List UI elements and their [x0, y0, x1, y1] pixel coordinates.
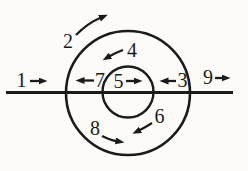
- figure-canvas: 1 2 3 4 5 6 7: [0, 0, 248, 171]
- arrow-3-group: 3: [168, 69, 188, 91]
- arrow-2-up-right-icon: [76, 18, 100, 35]
- arrow-1-group: 1: [17, 69, 40, 91]
- arrow-8-group: 8: [90, 117, 116, 141]
- arrow-3-label: 3: [178, 69, 188, 91]
- arrow-7-group: 7: [84, 69, 105, 91]
- arrow-4-label: 4: [127, 39, 137, 61]
- arrow-4-group: 4: [110, 39, 137, 61]
- arrow-5-label: 5: [114, 70, 124, 92]
- concentric-circles-diagram: 1 2 3 4 5 6 7: [0, 0, 248, 171]
- arrow-6-label: 6: [155, 105, 165, 127]
- arrow-5-group: 5: [114, 70, 135, 92]
- arrow-7-label: 7: [95, 69, 105, 91]
- arrow-8-label: 8: [90, 117, 100, 139]
- arrow-4-down-left-icon: [110, 50, 123, 56]
- arrow-2-label: 2: [63, 30, 73, 52]
- arrow-1-label: 1: [17, 69, 27, 91]
- arrow-9-group: 9: [203, 66, 222, 88]
- arrow-6-down-left-icon: [140, 123, 152, 130]
- arrow-9-label: 9: [203, 66, 213, 88]
- arrow-6-group: 6: [140, 105, 165, 130]
- arrow-8-down-right-icon: [102, 136, 116, 141]
- arrow-2-group: 2: [63, 18, 100, 52]
